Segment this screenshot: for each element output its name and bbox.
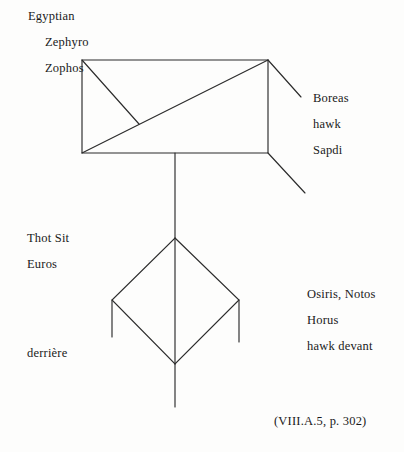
rectangle-main-diagonal [82,60,268,153]
label-hawk-devant: hawk devant [307,340,373,353]
label-horus: Horus [307,314,339,327]
label-hawk: hawk [313,118,341,131]
label-boreas: Boreas [313,92,349,105]
label-egyptian: Egyptian [28,10,75,23]
diagram-page: Egyptian Zephyro Zophos Boreas hawk Sapd… [0,0,404,452]
label-zephyro: Zephyro [45,36,89,49]
label-sapdi: Sapdi [313,144,342,157]
rectangle-short-diagonal [82,60,139,124]
label-thot-sit: Thot Sit [27,232,69,245]
label-zophos: Zophos [45,62,84,75]
top-right-ray [268,60,301,97]
label-derriere: derrière [27,347,67,360]
label-osiris-notos: Osiris, Notos [307,288,376,301]
bottom-right-ray [268,153,305,193]
label-euros: Euros [27,258,57,271]
citation-reference: (VIII.A.5, p. 302) [274,414,366,429]
